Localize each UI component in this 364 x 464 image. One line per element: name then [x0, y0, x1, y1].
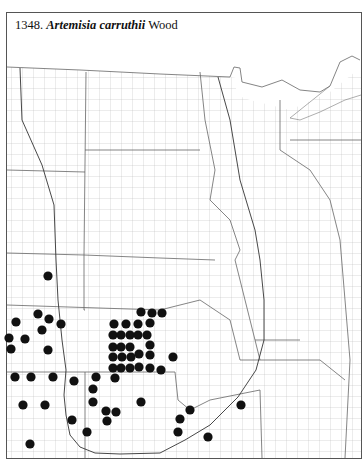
occurrence-dot: [18, 400, 27, 409]
occurrence-dot: [134, 362, 143, 371]
occurrence-dot: [125, 330, 134, 339]
occurrence-dot: [26, 372, 35, 381]
occurrence-dot: [56, 319, 65, 328]
occurrence-dot: [43, 271, 52, 280]
occurrence-dot: [40, 400, 49, 409]
occurrence-dot: [33, 309, 42, 318]
occurrence-dot: [69, 376, 78, 385]
occurrence-dot: [37, 325, 46, 334]
occurrence-dot: [134, 349, 143, 358]
occurrence-dot: [88, 397, 97, 406]
occurrence-dot: [136, 397, 145, 406]
occurrence-dot: [142, 330, 151, 339]
occurrence-dot: [133, 330, 142, 339]
occurrence-dot: [145, 318, 154, 327]
occurrence-dot: [116, 330, 125, 339]
occurrence-dot: [91, 372, 100, 381]
occurrence-dot: [108, 330, 117, 339]
occurrence-dot: [102, 416, 111, 425]
occurrence-dot: [110, 373, 119, 382]
occurrence-dot: [173, 427, 182, 436]
occurrence-dot: [157, 308, 166, 317]
occurrence-dot: [185, 405, 194, 414]
occurrence-dot: [126, 352, 135, 361]
occurrence-dot: [168, 352, 177, 361]
occurrence-dot: [44, 314, 53, 323]
occurrence-dot: [101, 406, 110, 415]
occurrence-dot: [108, 352, 117, 361]
occurrence-dot: [11, 317, 20, 326]
occurrence-dot: [82, 427, 91, 436]
occurrence-dot: [48, 372, 57, 381]
occurrence-dot: [43, 345, 52, 354]
county-map: [0, 0, 364, 464]
occurrence-dot: [121, 319, 130, 328]
occurrence-dot: [125, 342, 134, 351]
occurrence-dot: [108, 363, 117, 372]
occurrence-dot: [111, 407, 120, 416]
occurrence-dot: [145, 340, 154, 349]
occurrence-dot: [156, 365, 165, 374]
occurrence-dot: [88, 384, 97, 393]
occurrence-dot: [147, 308, 156, 317]
occurrence-dot: [145, 350, 154, 359]
occurrence-dot: [125, 363, 134, 372]
occurrence-dot: [175, 414, 184, 423]
occurrence-dot: [67, 415, 76, 424]
map-base: [7, 56, 361, 458]
occurrence-dot: [109, 319, 118, 328]
occurrence-dot: [116, 342, 125, 351]
occurrence-dot: [203, 432, 212, 441]
occurrence-dot: [236, 400, 245, 409]
occurrence-dot: [10, 372, 19, 381]
occurrence-dot: [133, 319, 142, 328]
occurrence-dot: [136, 307, 145, 316]
occurrence-dot: [20, 334, 29, 343]
occurrence-dot: [145, 363, 154, 372]
occurrence-dot: [6, 344, 15, 353]
occurrence-dot: [4, 333, 13, 342]
occurrence-dot: [25, 439, 34, 448]
occurrence-dot: [116, 363, 125, 372]
occurrence-dot: [117, 352, 126, 361]
occurrence-dot: [108, 342, 117, 351]
